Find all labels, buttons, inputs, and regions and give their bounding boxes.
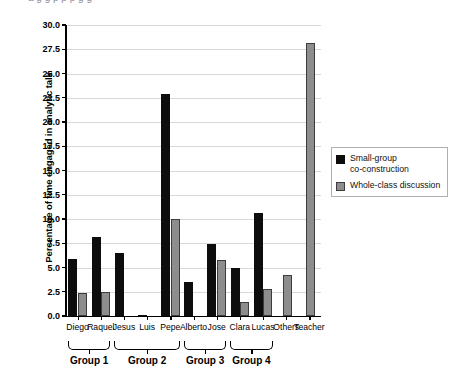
y-tick-mark [62, 73, 66, 74]
legend-swatch-icon [336, 155, 345, 164]
y-tick-mark [62, 146, 66, 147]
bar-pepe-s0 [161, 94, 170, 316]
bar-diego-s1 [78, 293, 87, 316]
bar-pepe-s1 [171, 219, 180, 316]
y-tick-mark [62, 170, 66, 171]
y-tick-label: 30.0 [42, 20, 60, 30]
gridline [66, 268, 321, 269]
gridline [66, 49, 321, 50]
x-tick-label-raquel: Raquel [87, 322, 114, 332]
y-tick-mark [62, 218, 66, 219]
y-tick-label: 2.5 [47, 287, 60, 297]
group-label-group-2: Group 2 [128, 355, 166, 366]
y-tick-label: 15.0 [42, 166, 60, 176]
y-tick-label: 5.0 [47, 263, 60, 273]
bar-jesus-s0 [115, 253, 124, 316]
x-tick-mark [170, 316, 171, 320]
y-tick-mark [62, 291, 66, 292]
x-tick-mark [309, 316, 310, 320]
x-tick-mark [240, 316, 241, 320]
x-tick-label-alberto: Alberto [180, 322, 207, 332]
gridline [66, 74, 321, 75]
gridline [66, 98, 321, 99]
group-bracket-stem [147, 349, 148, 354]
bar-lucas-s0 [254, 213, 263, 316]
top-cut-caption: a g g p p p g g [28, 0, 328, 4]
x-tick-label-jose: Jose [208, 322, 226, 332]
group-bracket-stem [89, 349, 90, 354]
x-tick-mark [78, 316, 79, 320]
y-tick-mark [62, 24, 66, 25]
x-tick-mark [194, 316, 195, 320]
bar-jose-s1 [217, 260, 226, 316]
bar-chart-figure: a g g p p p g g Percentage of time engag… [0, 0, 457, 385]
y-tick-label: 27.5 [42, 44, 60, 54]
y-tick-label: 7.5 [47, 238, 60, 248]
y-tick-label: 0.0 [47, 311, 60, 321]
legend-item-1[interactable]: Whole-class discussion [336, 180, 442, 191]
bar-alberto-s0 [184, 282, 193, 316]
bar-others-s1 [283, 275, 292, 316]
bar-diego-s0 [68, 259, 77, 316]
y-tick-mark [62, 97, 66, 98]
x-tick-label-luis: Luis [139, 322, 155, 332]
gridline [66, 122, 321, 123]
group-bracket-stem [251, 349, 252, 354]
x-tick-label-pepe: Pepe [160, 322, 180, 332]
legend-label: Small-group co-construction [350, 153, 409, 175]
x-tick-label-clara: Clara [230, 322, 251, 332]
y-tick-label: 17.5 [42, 141, 60, 151]
gridline [66, 146, 321, 147]
y-tick-mark [62, 243, 66, 244]
y-tick-label: 25.0 [42, 69, 60, 79]
gridline [66, 243, 321, 244]
gridline [66, 171, 321, 172]
legend-swatch-icon [336, 182, 345, 191]
y-tick-mark [62, 121, 66, 122]
y-tick-mark [62, 267, 66, 268]
y-tick-label: 22.5 [42, 93, 60, 103]
gridline [66, 219, 321, 220]
y-tick-label: 20.0 [42, 117, 60, 127]
legend: Small-group co-constructionWhole-class d… [331, 147, 448, 197]
x-tick-mark [147, 316, 148, 320]
y-tick-label: 12.5 [42, 190, 60, 200]
x-tick-mark [217, 316, 218, 320]
y-tick-mark [62, 194, 66, 195]
y-tick-mark [62, 315, 66, 316]
x-tick-label-diego: Diego [66, 322, 88, 332]
x-tick-label-lucas: Lucas [252, 322, 275, 332]
x-tick-mark [263, 316, 264, 320]
bar-clara-s0 [231, 268, 240, 317]
group-label-group-4: Group 4 [232, 355, 270, 366]
x-tick-mark [286, 316, 287, 320]
y-tick-label: 10.0 [42, 214, 60, 224]
bar-teacher-s1 [306, 43, 315, 316]
legend-label: Whole-class discussion [350, 180, 440, 191]
bar-clara-s1 [240, 302, 249, 316]
gridline [66, 195, 321, 196]
plot-area: 0.02.55.07.510.012.515.017.520.022.525.0… [66, 25, 321, 316]
x-tick-mark [124, 316, 125, 320]
gridline [66, 25, 321, 26]
legend-item-0[interactable]: Small-group co-construction [336, 153, 442, 175]
x-tick-label-jesus: Jesus [113, 322, 135, 332]
group-label-group-1: Group 1 [70, 355, 108, 366]
bar-luis-s0 [138, 315, 147, 316]
x-tick-label-teacher: Teacher [294, 322, 325, 332]
group-label-group-3: Group 3 [186, 355, 224, 366]
bar-raquel-s1 [101, 292, 110, 316]
x-tick-mark [101, 316, 102, 320]
bar-raquel-s0 [92, 237, 101, 316]
bar-jose-s0 [207, 244, 216, 316]
group-bracket-stem [205, 349, 206, 354]
y-tick-mark [62, 49, 66, 50]
bar-lucas-s1 [263, 289, 272, 316]
